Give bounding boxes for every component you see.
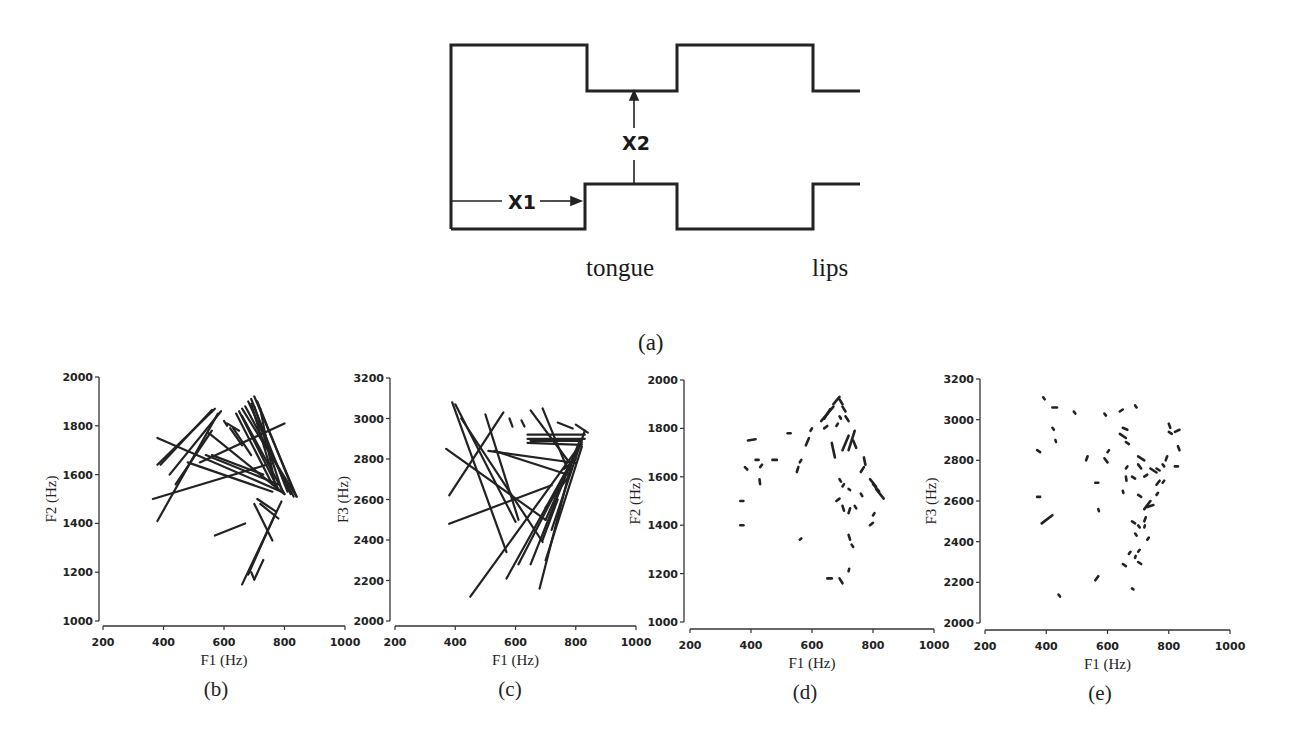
plot-e: 2000220024002600280030003200200400600800… [923,373,1246,705]
y-tick-label: 2800 [353,453,384,466]
y-tick-label: 2600 [353,494,384,507]
y-tick-label: 1200 [647,568,678,581]
y-tick-label: 2200 [353,575,384,588]
trajectory-segment [1138,495,1141,497]
trajectory-segment [1126,466,1128,468]
trajectory-segment [748,439,756,440]
trajectory-segment [811,428,813,430]
x-tick-label: 400 [740,639,763,652]
trajectory-segment [461,419,542,543]
trajectory-segment [864,457,866,464]
x-tick-label: 200 [92,636,115,649]
y-tick-label: 1400 [62,517,93,530]
trajectory-segments [1037,397,1179,596]
trajectory-segment [1043,397,1045,399]
trajectory-segment [1042,515,1053,523]
trajectory-segment [849,508,851,513]
panel-caption: (c) [498,677,521,701]
y-tick-label: 1200 [62,566,93,579]
x-tick-label: 600 [1096,640,1119,653]
trajectory-segment [1138,550,1140,552]
trajectory-segment [760,479,761,484]
y-tick-label: 2000 [62,371,93,384]
trajectory-segment [1104,414,1106,416]
trajectory-segment [1095,576,1098,580]
trajectory-segment [1135,405,1137,407]
panel-caption: (e) [1088,681,1111,705]
y-tick-label: 2400 [353,534,384,547]
y-tick-label: 1000 [62,615,93,628]
y-tick-label: 1800 [647,422,678,435]
trajectory-segment [1138,525,1140,527]
y-axis-label: F3 (Hz) [923,477,940,524]
trajectory-segment [840,578,843,583]
y-tick-label: 2000 [647,374,678,387]
trajectory-segment [251,572,254,579]
trajectory-segment [1055,440,1056,442]
trajectory-segment [1169,424,1171,428]
trajectory-segment [745,467,747,469]
y-tick-label: 2000 [353,615,384,628]
trajectory-segment [1132,588,1134,589]
y-tick-label: 3200 [353,372,384,385]
trajectory-segment [254,560,263,580]
y-tick-label: 3000 [943,414,974,427]
trajectory-segment [1157,493,1159,495]
trajectory-segment [853,441,856,448]
trajectory-segment [1120,434,1126,438]
trajectory-segment [224,421,227,426]
trajectory-segment [1144,525,1145,527]
x-axis-label: F1 (Hz) [788,655,835,672]
y-tick-label: 3200 [943,373,974,386]
x-tick-label: 200 [974,640,997,653]
trajectory-segments [446,402,588,596]
trajectory-segment [1059,595,1061,597]
y-axis-label: F2 (Hz) [627,477,644,524]
trajectory-segment [1157,481,1160,485]
trajectory-segment [800,460,802,462]
x-tick-label: 600 [801,639,824,652]
x-axis-label: F1 (Hz) [200,652,247,669]
trajectory-segment [1123,428,1128,430]
trajectory-segment [1157,469,1160,471]
x-tick-label: 800 [273,636,296,649]
trajectory-segment [1126,477,1127,481]
trajectory-segment [843,436,849,451]
formant-plots: 1000120014001600180020002004006008001000… [0,0,1292,733]
trajectory-segment [1132,477,1135,479]
trajectory-segment [531,410,570,463]
trajectory-segment [861,494,863,497]
x-tick-label: 400 [444,636,467,649]
trajectory-segment [1169,432,1172,434]
trajectory-segment [1132,521,1135,523]
trajectory-segment [849,489,851,490]
trajectory-segment [176,431,212,485]
trajectory-segments [740,397,883,583]
x-tick-label: 1000 [330,636,361,649]
trajectory-segment [1147,538,1149,540]
x-axis-label: F1 (Hz) [492,652,539,669]
x-tick-label: 400 [1035,640,1058,653]
trajectory-segment [519,453,576,564]
trajectory-segment [1135,556,1136,558]
plot-b: 1000120014001600180020002004006008001000… [43,371,361,701]
trajectory-segment [1144,517,1146,521]
trajectory-segment [855,506,857,509]
trajectory-segment [800,539,802,540]
y-tick-label: 1600 [62,469,93,482]
panel-caption: (d) [793,680,818,704]
y-tick-label: 1800 [62,420,93,433]
x-tick-label: 1000 [1215,640,1246,653]
x-tick-label: 800 [1157,640,1180,653]
y-tick-label: 1000 [647,616,678,629]
trajectory-segment [1104,458,1107,462]
x-tick-label: 400 [152,636,175,649]
trajectory-segment [797,467,799,472]
trajectory-segment [1138,562,1141,564]
trajectory-segment [873,513,875,515]
trajectory-segment [1163,481,1165,483]
y-tick-label: 1600 [647,471,678,484]
trajectory-segment [806,438,809,445]
trajectory-segment [1126,442,1129,444]
trajectory-segment [1166,456,1168,460]
